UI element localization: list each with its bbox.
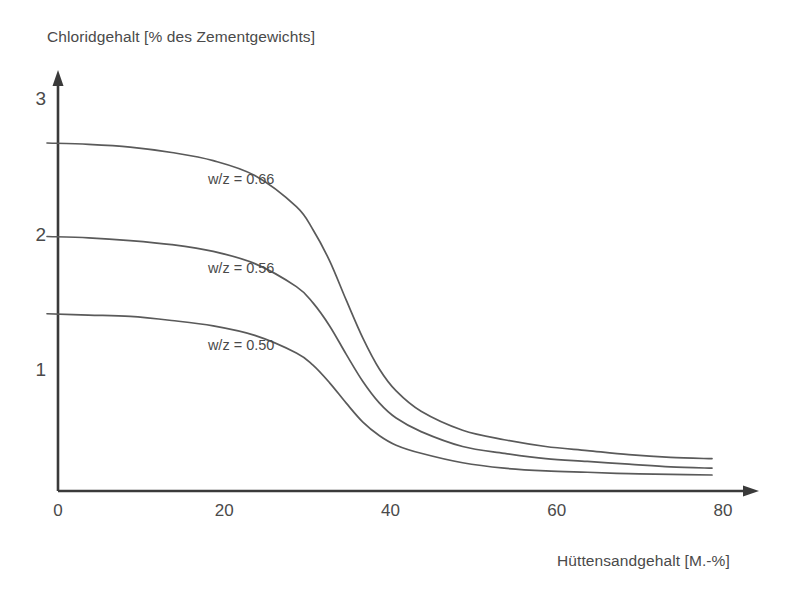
x-tick-label: 20 <box>204 501 244 521</box>
x-tick-label: 60 <box>537 501 577 521</box>
curve-label-0: w/z = 0.66 <box>208 171 275 187</box>
chart-figure: Chloridgehalt [% des Zementgewichts] Hüt… <box>0 0 789 603</box>
data-curve <box>47 314 712 475</box>
data-curve <box>47 143 712 459</box>
x-tick-label: 40 <box>371 501 411 521</box>
y-tick-label: 1 <box>20 359 46 381</box>
x-tick-label: 80 <box>703 501 743 521</box>
data-curve <box>47 237 712 469</box>
y-tick-label: 2 <box>20 224 46 246</box>
curve-label-2: w/z = 0.50 <box>208 337 275 353</box>
x-tick-label: 0 <box>38 501 78 521</box>
curve-label-1: w/z = 0.56 <box>208 260 275 276</box>
x-axis-arrowhead <box>743 486 759 497</box>
y-axis-arrowhead <box>53 70 64 86</box>
axes-group <box>53 70 760 497</box>
data-curves-group <box>47 143 712 475</box>
y-tick-label: 3 <box>20 88 46 110</box>
